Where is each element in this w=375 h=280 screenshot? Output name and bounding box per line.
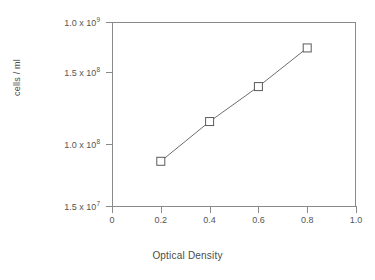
y-tick-exponent: 9	[96, 16, 100, 23]
x-axis-title: Optical Density	[0, 250, 375, 261]
plot-area	[112, 22, 356, 207]
y-tick-exponent: 7	[96, 200, 100, 207]
x-tick-mark	[258, 206, 259, 213]
y-tick-mark	[106, 144, 113, 145]
x-tick-mark	[307, 206, 308, 213]
y-tick-label: 1.5 x 107	[0, 201, 100, 212]
x-tick-mark	[210, 206, 211, 213]
x-tick-label: 0.8	[301, 216, 314, 225]
x-tick-label: 1.0	[350, 216, 363, 225]
y-tick-label: 1.0 x 109	[0, 17, 100, 28]
y-tick-label: 1.0 x 108	[0, 139, 100, 150]
x-tick-label: 0.6	[252, 216, 265, 225]
x-tick-mark	[112, 206, 113, 213]
y-tick-exponent: 8	[96, 65, 100, 72]
y-tick-mark	[106, 72, 113, 73]
x-tick-mark	[356, 206, 357, 213]
y-tick-exponent: 8	[96, 138, 100, 145]
y-axis-title: cells / ml	[12, 59, 22, 96]
x-tick-mark	[161, 206, 162, 213]
x-tick-label: 0.2	[155, 216, 168, 225]
plot-right-border	[355, 22, 356, 207]
x-tick-label: 0.4	[203, 216, 216, 225]
x-axis-line	[112, 206, 356, 207]
x-tick-label: 0	[109, 216, 114, 225]
chart-figure: 1.0 x 1091.5 x 1081.0 x 1081.5 x 107 00.…	[0, 0, 375, 280]
y-tick-mark	[106, 22, 113, 23]
